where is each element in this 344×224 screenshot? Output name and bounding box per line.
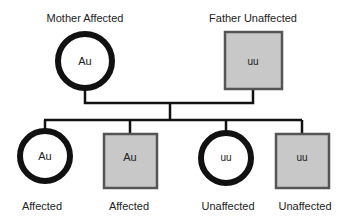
father-label: Father Unaffected xyxy=(209,12,297,24)
child-4-genotype: uu xyxy=(296,152,307,163)
child-1-label: Affected xyxy=(22,200,62,212)
mother-label: Mother Affected xyxy=(47,12,124,24)
child-4-label: Unaffected xyxy=(278,200,331,212)
child-2-label: Affected xyxy=(109,200,149,212)
child-2-genotype: Au xyxy=(123,151,136,163)
father-genotype: uu xyxy=(247,56,258,67)
pedigree-lines xyxy=(0,0,344,224)
child-1-genotype: Au xyxy=(38,150,51,162)
child-3-label: Unaffected xyxy=(201,200,254,212)
mother-genotype: Au xyxy=(78,55,91,67)
child-3-genotype: uu xyxy=(220,152,231,163)
